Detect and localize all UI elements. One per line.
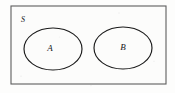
set-b-label: B [120,42,126,52]
venn-diagram-canvas: S A B [0,0,175,93]
universal-set-rectangle [11,6,166,84]
venn-diagram-figure: S A B [0,0,175,93]
universal-set-label: S [21,15,25,24]
set-a-label: A [46,43,53,53]
